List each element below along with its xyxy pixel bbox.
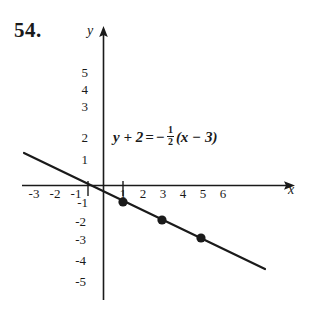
x-tick-neg3: -3 (24, 187, 44, 200)
equation-annotation: y + 2 = − 1 2 (x − 3) (112, 126, 218, 148)
equation-lhs: y + 2 (113, 130, 143, 145)
equation-minus-sign: − (156, 130, 165, 145)
x-tick-neg1: -1 (66, 187, 86, 200)
x-tick-4: 4 (173, 187, 193, 200)
y-tick-5: 5 (66, 66, 88, 79)
y-tick-2: 2 (66, 131, 88, 144)
plotted-line (24, 153, 265, 269)
coordinate-plane (0, 0, 309, 313)
y-tick-neg4: -4 (64, 254, 86, 267)
x-tick-2: 2 (133, 187, 153, 200)
equation-rhs: (x − 3) (176, 130, 218, 145)
x-tick-1: 1 (113, 187, 133, 200)
fraction-numerator: 1 (167, 125, 174, 136)
x-tick-5: 5 (193, 187, 213, 200)
x-tick-3: 3 (153, 187, 173, 200)
y-tick-neg3: -3 (64, 233, 86, 246)
data-point (157, 215, 166, 224)
y-tick-4: 4 (66, 83, 88, 96)
data-point (196, 233, 205, 242)
y-tick-3: 3 (66, 100, 88, 113)
y-tick-neg5: -5 (64, 275, 86, 288)
y-tick-neg2: -2 (64, 215, 86, 228)
x-tick-6: 6 (213, 187, 233, 200)
equation-equals: = (145, 130, 154, 145)
fraction-denominator: 2 (167, 136, 174, 148)
graph-figure: 54. y x 5 4 3 2 1 (0, 0, 309, 313)
y-axis (99, 26, 108, 300)
equation-fraction: 1 2 (167, 125, 174, 147)
x-tick-neg2: -2 (45, 187, 65, 200)
y-tick-1: 1 (66, 153, 88, 166)
